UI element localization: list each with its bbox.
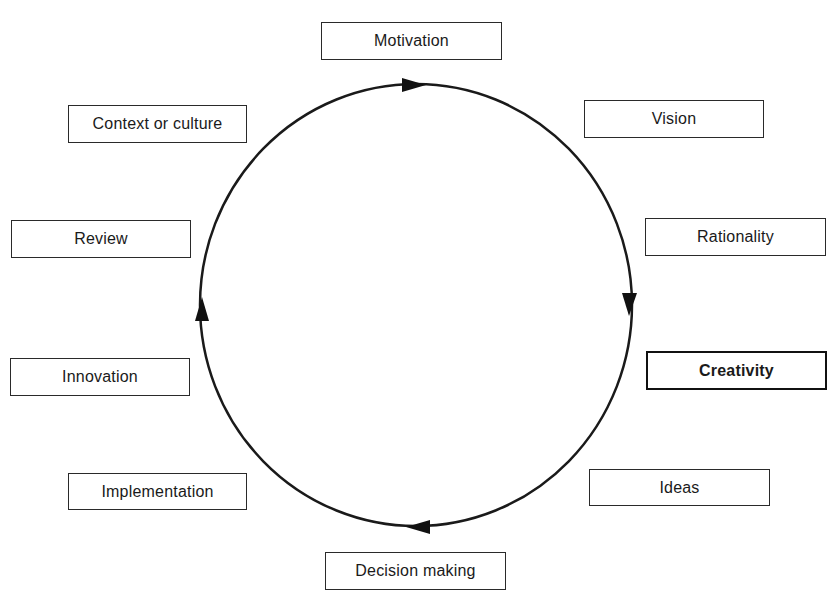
arrow-right-icon — [402, 78, 426, 92]
node-label: Rationality — [697, 228, 774, 246]
node-label: Context or culture — [93, 115, 223, 133]
node-label: Ideas — [659, 479, 699, 497]
node-label: Vision — [652, 110, 697, 128]
node-review: Review — [11, 220, 191, 258]
node-label: Creativity — [699, 362, 774, 380]
node-vision: Vision — [584, 100, 764, 138]
node-decision-making: Decision making — [325, 552, 506, 590]
node-rationality: Rationality — [645, 218, 826, 256]
node-creativity: Creativity — [646, 351, 827, 390]
node-implementation: Implementation — [68, 473, 247, 510]
cycle-diagram — [0, 0, 839, 602]
node-ideas: Ideas — [589, 469, 770, 506]
node-label: Decision making — [355, 562, 475, 580]
arrow-left-icon — [406, 520, 430, 534]
node-innovation: Innovation — [10, 358, 190, 396]
node-context-or-culture: Context or culture — [68, 105, 247, 143]
arrow-up-icon — [195, 297, 209, 321]
node-label: Implementation — [101, 483, 213, 501]
cycle-circle — [200, 84, 632, 526]
node-motivation: Motivation — [321, 22, 502, 60]
node-label: Review — [74, 230, 128, 248]
node-label: Innovation — [62, 368, 138, 386]
arrow-down-icon — [622, 293, 637, 316]
node-label: Motivation — [374, 32, 449, 50]
